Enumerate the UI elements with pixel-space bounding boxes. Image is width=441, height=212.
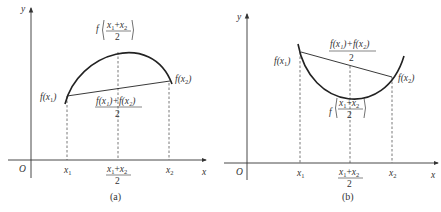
label-f-midpoint: f x1+x2 2 [329, 98, 366, 120]
svg-text:f(x₁)+f(x₂): f(x₁)+f(x₂) [330, 39, 369, 50]
panel-b: y x O f(x1) f(x2) f(x₁)+f(x₂) 2 f x1+x2 … [224, 12, 438, 203]
svg-text:x1+x2: x1+x2 [338, 167, 359, 178]
label-f-x2: f(x2) [175, 74, 191, 85]
label-f-x2: f(x2) [398, 73, 414, 84]
svg-text:f: f [96, 24, 100, 34]
tick-x2: x2 [165, 165, 173, 176]
svg-text:x1+x2: x1+x2 [106, 164, 127, 175]
x-axis-label: x [430, 170, 436, 180]
svg-text:f: f [329, 107, 333, 117]
y-axis-label: y [236, 12, 242, 22]
panel-a: y x O f(x1) f(x2) f x1+x2 2 f(x₁)+f(x₂) … [8, 4, 207, 203]
svg-text:x1+x2: x1+x2 [106, 20, 127, 31]
y-axis-label: y [20, 4, 26, 14]
label-f-x1: f(x1) [40, 92, 56, 103]
caption-b: (b) [342, 191, 354, 203]
caption-a: (a) [110, 191, 121, 203]
convexity-diagram: y x O f(x1) f(x2) f x1+x2 2 f(x₁)+f(x₂) … [0, 0, 441, 212]
tick-x1: x1 [296, 168, 304, 179]
origin-label: O [236, 167, 243, 177]
origin-label: O [19, 164, 26, 174]
svg-text:2: 2 [347, 179, 352, 189]
x-axis-label: x [201, 167, 207, 177]
svg-text:f(x₁)+f(x₂): f(x₁)+f(x₂) [96, 96, 135, 107]
tick-midpoint: x1+x2 2 [106, 164, 131, 186]
svg-text:2: 2 [349, 53, 354, 63]
svg-text:2: 2 [347, 110, 352, 120]
chord [67, 81, 170, 96]
label-f-x1: f(x1) [274, 56, 290, 67]
label-chord-average: f(x₁)+f(x₂) 2 [95, 96, 142, 119]
label-f-midpoint: f x1+x2 2 [96, 20, 134, 42]
tick-x1: x1 [63, 165, 71, 176]
label-chord-average: f(x₁)+f(x₂) 2 [329, 39, 376, 63]
chord [301, 52, 392, 77]
tick-midpoint: x1+x2 2 [338, 167, 363, 189]
svg-text:2: 2 [115, 176, 120, 186]
svg-text:2: 2 [115, 32, 120, 42]
tick-x2: x2 [388, 168, 396, 179]
svg-text:2: 2 [115, 109, 120, 119]
